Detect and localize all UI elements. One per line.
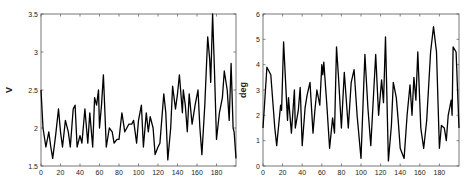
y-tick-label: 2 [256,112,260,119]
y-tick-label: 5 [256,36,260,43]
y-tick-label: 4 [256,61,260,68]
x-tick-label: 60 [318,169,326,176]
y-tick-label: 6 [256,11,260,18]
y-tick-label: 1.5 [28,163,38,170]
y-tick-label: 3.5 [28,11,38,18]
x-tick-label: 0 [39,169,43,176]
y-tick-label: 1 [256,137,260,144]
x-tick-label: 160 [191,169,203,176]
x-tick-label: 80 [115,169,123,176]
y-axis-label: V [4,87,14,93]
x-tick-label: 140 [172,169,184,176]
y-tick-label: 0 [256,163,260,170]
x-tick-label: 160 [414,169,426,176]
x-tick-label: 180 [211,169,223,176]
x-tick-label: 120 [152,169,164,176]
y-tick-label: 3 [256,87,260,94]
x-tick-label: 0 [261,169,265,176]
x-tick-label: 20 [279,169,287,176]
x-tick-label: 40 [298,169,306,176]
x-tick-label: 20 [57,169,65,176]
x-tick-label: 60 [96,169,104,176]
x-tick-label: 40 [76,169,84,176]
y-tick-label: 2.5 [28,87,38,94]
x-tick-label: 100 [355,169,367,176]
y-tick-label: 2 [34,125,38,132]
y-tick-label: 3 [34,49,38,56]
x-tick-label: 100 [133,169,145,176]
x-tick-label: 80 [338,169,346,176]
angle-chart-svg: 0204060801001201401601800123456deg [237,0,475,184]
voltage-chart-svg: 0204060801001201401601801.522.533.5V [0,0,237,184]
angle-chart: 0204060801001201401601800123456deg [237,0,475,184]
voltage-chart: 0204060801001201401601801.522.533.5V [0,0,237,184]
y-axis-label: deg [238,82,248,98]
x-tick-label: 180 [434,169,446,176]
x-tick-label: 120 [375,169,387,176]
x-tick-label: 140 [394,169,406,176]
